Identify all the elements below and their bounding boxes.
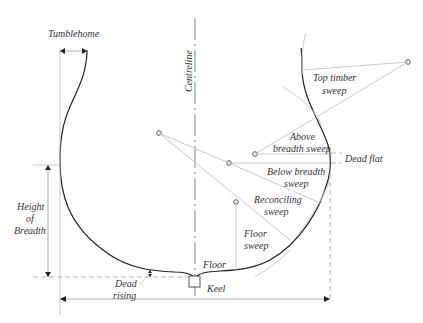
floor-sweep-label: Floor (243, 228, 267, 239)
reconciling-sweep-label: Reconciling (253, 194, 302, 205)
arrow-icon (60, 296, 66, 302)
arrow-icon (324, 296, 330, 302)
reconciling-radius (159, 133, 290, 240)
below-breadth-sweep-label: sweep (284, 178, 308, 189)
top-timber-arc (302, 33, 306, 75)
dead-rising-label: Dead (114, 278, 138, 289)
top-timber-radius (303, 62, 408, 70)
keel-block (189, 276, 200, 287)
height-of-breadth-label: of (26, 213, 35, 224)
height-of-breadth-label: Height (16, 201, 44, 212)
arrow-icon (45, 165, 51, 170)
hull-outline-left (60, 50, 193, 276)
above-breadth-sweep-label: breadth sweep (273, 143, 331, 154)
keel-label: Keel (206, 283, 226, 294)
floor-sweep-label: sweep (244, 240, 268, 251)
arrow-icon (45, 272, 51, 277)
reconciling-sweep-label: sweep (264, 206, 288, 217)
floor-label: Floor (202, 259, 226, 270)
top-timber-sweep-label: sweep (322, 85, 346, 96)
top-timber-sweep-label: Top timber (313, 72, 356, 83)
arrow-icon (148, 274, 152, 277)
hull-section-diagram: Centreline Tumblehome Height of Breadth … (0, 0, 423, 323)
dead-flat-label: Dead flat (344, 153, 383, 164)
centreline-label: Centreline (183, 50, 194, 92)
arrow-icon (82, 48, 87, 54)
height-of-breadth-label: Breadth (14, 225, 46, 236)
above-breadth-sweep-label: Above (289, 131, 316, 142)
tumblehome-label: Tumblehome (48, 28, 100, 39)
below-breadth-sweep-label: Below breadth (267, 166, 325, 177)
dead-rising-leader (140, 275, 148, 285)
above-breadth-arc (283, 87, 322, 125)
arrow-icon (60, 48, 65, 54)
below-breadth-radius-link (159, 133, 229, 163)
reconciling-arc (255, 250, 290, 277)
